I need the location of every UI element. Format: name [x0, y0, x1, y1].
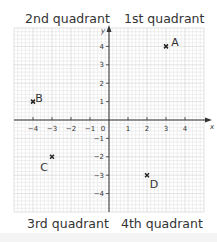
point-label-b: B — [35, 92, 43, 105]
point-label-c: C — [40, 161, 48, 174]
y-tick-label: −1 — [94, 135, 104, 143]
x-tick-label: 4 — [183, 125, 188, 133]
y-tick-label: 4 — [100, 43, 105, 51]
point-label-a: A — [171, 36, 179, 49]
y-tick-label: 3 — [100, 61, 104, 69]
x-tick-label: −2 — [66, 125, 76, 133]
x-tick-label: −1 — [85, 125, 95, 133]
x-axis-arrow-icon — [205, 118, 212, 123]
bottom-strip — [0, 233, 217, 242]
point-label-d: D — [150, 178, 158, 191]
y-tick-label: −3 — [94, 172, 104, 180]
x-tick-label: 3 — [164, 125, 168, 133]
coordinate-plane: xy0−4−3−2−112344321−1−2−3−4ABCD — [0, 0, 217, 242]
x-tick-label: −4 — [28, 125, 39, 133]
x-axis-label: x — [209, 123, 215, 131]
y-tick-label: −2 — [94, 153, 104, 161]
y-axis-arrow-icon — [107, 25, 112, 32]
origin-label: 0 — [101, 125, 105, 133]
x-tick-label: −3 — [47, 125, 57, 133]
y-tick-label: 1 — [100, 98, 104, 106]
y-tick-label: −4 — [94, 190, 105, 198]
x-tick-label: 1 — [126, 125, 130, 133]
y-axis-label: y — [100, 27, 106, 35]
x-tick-label: 2 — [145, 125, 149, 133]
y-tick-label: 2 — [100, 80, 104, 88]
